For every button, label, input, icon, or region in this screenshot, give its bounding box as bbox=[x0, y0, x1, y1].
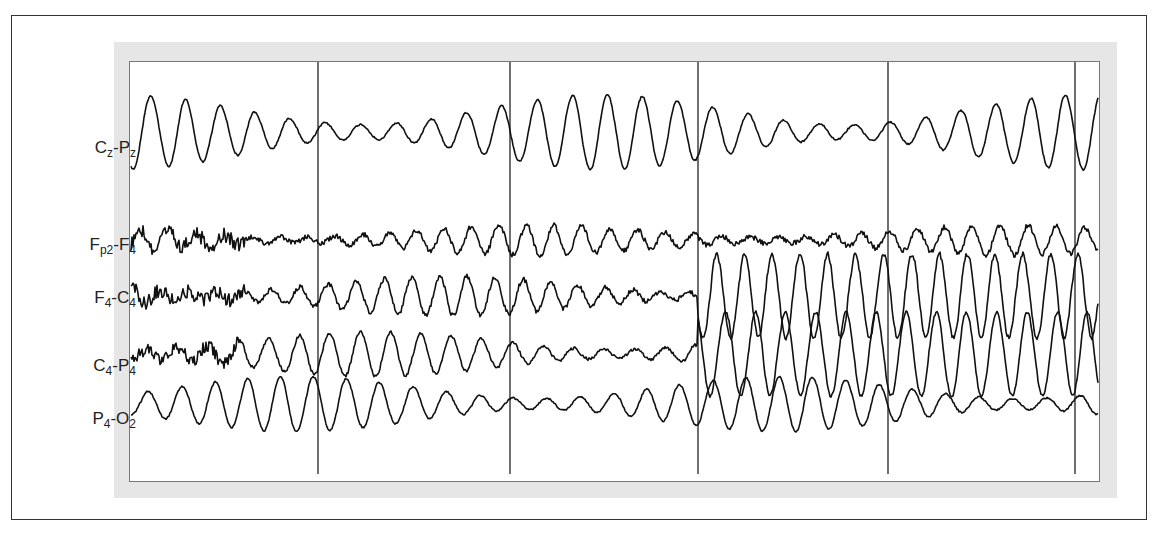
waveform-f4-c4 bbox=[131, 252, 1098, 340]
waveforms bbox=[131, 95, 1098, 432]
eeg-traces bbox=[0, 0, 1157, 544]
waveform-fp2-f4 bbox=[131, 223, 1098, 257]
waveform-p4-o2 bbox=[131, 377, 1098, 432]
waveform-cz-pz bbox=[131, 95, 1098, 171]
